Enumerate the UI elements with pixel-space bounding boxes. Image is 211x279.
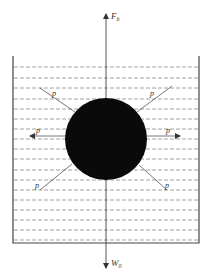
pressure-label-lower-right: p: [164, 181, 169, 190]
pressure-line-lower-left: [40, 164, 72, 190]
pressure-label-upper-left: p: [51, 89, 56, 98]
submerged-sphere: [65, 98, 147, 180]
pressure-line-lower-right: [139, 165, 167, 190]
pressure-label-right: p: [165, 126, 170, 135]
buoyancy-diagram: Fb W0 p p p p p p: [0, 0, 211, 279]
pressure-label-upper-right: p: [149, 89, 154, 98]
buoyancy-label: Fb: [110, 11, 120, 22]
pressure-label-lower-left: p: [34, 181, 39, 190]
weight-label: W0: [111, 258, 122, 269]
pressure-line-upper-left: [40, 88, 75, 112]
pressure-label-left: p: [35, 126, 40, 135]
